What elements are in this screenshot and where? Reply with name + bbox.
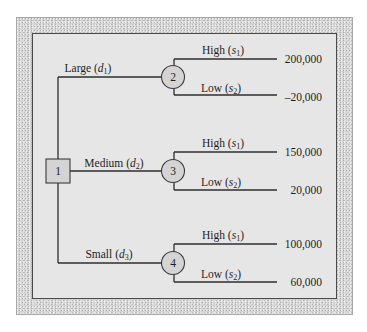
- node-label: 1: [55, 165, 61, 177]
- outcome-label-high-2: High (s1): [202, 44, 244, 58]
- outcome-label-low-2: Low (s2): [201, 82, 241, 96]
- chance-node-2-label: 2: [170, 71, 176, 83]
- payoff-large-low: –20,000: [284, 91, 323, 104]
- outcome-label-low-4: Low (s2): [201, 268, 241, 282]
- decision-node-1: 1: [46, 159, 70, 183]
- outcome-label-high-4: High (s1): [202, 229, 244, 243]
- decision-tree: 1 Large (d1) 2 High (s1) Low (s2) 200,00…: [0, 0, 367, 332]
- payoff-small-high: 100,000: [285, 238, 323, 251]
- payoff-large-high: 200,000: [285, 53, 323, 66]
- outcome-label-high-3: High (s1): [202, 137, 244, 151]
- decision-label-large: Large (d1): [65, 62, 112, 76]
- chance-node-4-label: 4: [170, 257, 176, 269]
- branch-small: Small (d3) 4 High (s1) Low (s2) 100,000 …: [85, 229, 322, 289]
- payoff-medium-low: 20,000: [290, 184, 322, 197]
- decision-label-medium: Medium (d2): [84, 157, 143, 171]
- branch-large: Large (d1) 2 High (s1) Low (s2) 200,000 …: [65, 44, 323, 104]
- payoff-small-low: 60,000: [290, 276, 322, 289]
- chance-node-3-label: 3: [170, 165, 176, 177]
- outcome-label-low-3: Low (s2): [201, 176, 241, 190]
- branch-medium: Medium (d2) 3 High (s1) Low (s2) 150,000…: [84, 137, 322, 197]
- payoff-medium-high: 150,000: [285, 146, 323, 159]
- decision-label-small: Small (d3): [85, 248, 132, 262]
